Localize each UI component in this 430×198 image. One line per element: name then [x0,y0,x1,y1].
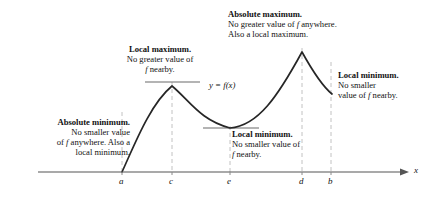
absolute-minimum-heading: Absolute minimum. [4,117,130,127]
local-maximum-heading: Local maximum. [108,44,212,54]
annotation-absolute-maximum: Absolute maximum. No greater value of f … [228,9,388,39]
curve-equation-label: y = f(x) [209,80,235,90]
tick-label-d: d [299,176,304,186]
tick-label-a: a [119,176,124,186]
local-minimum-right-heading: Local minimum. [338,70,430,80]
absolute-maximum-heading: Absolute maximum. [228,9,388,19]
annotation-local-maximum: Local maximum. No greater value of f nea… [108,44,212,74]
absolute-maximum-line2: Also a local maximum. [228,29,388,39]
local-minimum-middle-line1: No smaller value of [232,139,340,149]
local-maximum-line1: No greater value of [108,54,212,64]
absolute-maximum-line1: No greater value of f anywhere. [228,19,388,29]
tick-label-b: b [328,176,333,186]
x-axis [38,169,409,176]
annotation-local-minimum-middle: Local minimum. No smaller value of f nea… [232,129,340,159]
absolute-minimum-line3: local minimum. [4,147,130,157]
absolute-minimum-line2: of f anywhere. Also a [4,137,130,147]
annotation-absolute-minimum: Absolute minimum. No smaller value of f … [4,117,130,158]
tick-label-e: e [227,176,231,186]
annotation-local-minimum-right: Local minimum. No smaller value of f nea… [338,70,430,100]
local-maximum-line2: f nearby. [108,64,212,74]
local-minimum-right-line2: value of f nearby. [338,90,430,100]
local-minimum-middle-heading: Local minimum. [232,129,340,139]
tick-label-c: c [169,176,173,186]
x-axis-label: x [414,165,418,175]
absolute-minimum-line1: No smaller value [4,127,130,137]
local-minimum-right-line1: No smaller [338,80,430,90]
local-minimum-middle-line2: f nearby. [232,149,340,159]
tangent-segments [145,82,259,128]
